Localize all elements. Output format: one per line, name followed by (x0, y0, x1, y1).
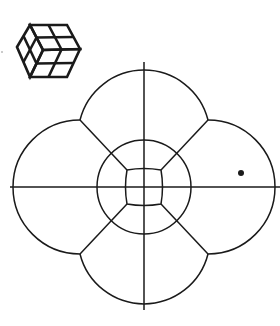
flower-diagram (10, 62, 280, 310)
marker-dot (238, 170, 244, 176)
speck (1, 51, 3, 53)
cube-grid-line (37, 63, 74, 64)
cube-icon (17, 25, 80, 77)
cube-grid-line (37, 37, 74, 38)
diagram-canvas (0, 0, 280, 326)
